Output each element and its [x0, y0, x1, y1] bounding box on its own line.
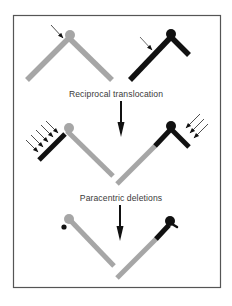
gray-chromosome-translocated — [39, 123, 113, 176]
gray-chromosome-initial — [27, 30, 112, 80]
breakpoint-arrow-icon — [51, 25, 63, 38]
chromosome-rearrangement-diagram: Reciprocal translocation Paracentric del… — [0, 0, 232, 306]
black-chromosome-translocated — [117, 121, 189, 184]
down-arrow-icon — [118, 101, 125, 137]
black-chromosome-initial — [130, 29, 189, 80]
down-arrow-icon — [117, 205, 124, 241]
step-label-paracentric-deletions: Paracentric deletions — [80, 193, 162, 203]
gray-chromosome-after-deletion — [61, 214, 114, 266]
black-chromosome-after-deletion — [117, 216, 177, 278]
step-label-reciprocal-translocation: Reciprocal translocation — [69, 89, 163, 99]
breakpoint-arrows-right — [186, 114, 208, 138]
breakpoint-arrow-icon — [140, 37, 152, 50]
